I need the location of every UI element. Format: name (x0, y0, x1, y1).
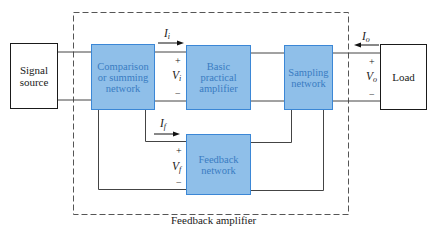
signal-source-block: Signal source (10, 43, 58, 109)
wire-feedback-bottom-left (99, 110, 187, 190)
output-voltage-label: Vo (366, 71, 377, 85)
load-block: Load (380, 44, 427, 110)
basic-amplifier-label: Basic practical amplifier (193, 61, 244, 94)
load-label: Load (392, 71, 415, 83)
feedback-network-block: Feedback network (186, 134, 251, 195)
feedback-minus-sign: − (176, 177, 182, 188)
output-plus-sign: + (369, 56, 375, 67)
feedback-voltage-label: Vf (172, 161, 181, 175)
output-current-label: Io (362, 31, 370, 45)
arrow-Ii-icon (158, 41, 184, 46)
feedback-current-label: If (160, 118, 166, 132)
diagram-caption: Feedback amplifier (171, 214, 256, 226)
output-minus-sign: − (369, 89, 375, 100)
basic-amplifier-block: Basic practical amplifier (186, 45, 251, 110)
wire-feedback-top-right (251, 110, 292, 143)
signal-source-label: Signal source (11, 64, 57, 88)
input-minus-sign: − (175, 88, 181, 99)
input-voltage-label: Vi (172, 70, 181, 84)
feedback-network-label: Feedback network (195, 154, 242, 176)
input-current-label: Ii (164, 28, 170, 42)
sampling-network-block: Sampling network (284, 45, 333, 110)
comparison-network-label: Comparison or summing network (94, 61, 152, 94)
feedback-amplifier-diagram: Signal source Comparison or summing netw… (0, 0, 439, 228)
arrow-If-icon (154, 132, 180, 137)
input-plus-sign: + (175, 55, 181, 66)
comparison-network-block: Comparison or summing network (91, 44, 155, 110)
wire-feedback-bottom-right (251, 110, 324, 191)
feedback-plus-sign: + (176, 145, 182, 156)
sampling-network-label: Sampling network (285, 67, 332, 89)
